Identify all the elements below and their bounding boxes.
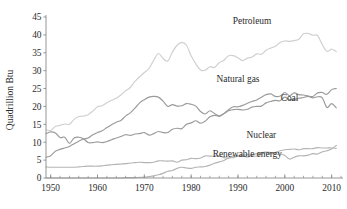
series-layer: [46, 33, 336, 178]
x-tick-label: 1950: [41, 183, 60, 193]
series-labels-layer: PetroleumNatural gasCoalNuclearRenewable…: [213, 16, 299, 158]
series-label-natural-gas: Natural gas: [217, 74, 260, 84]
chart-container: 0510152025303540451950196019701980199020…: [0, 0, 347, 209]
series-line-petroleum: [46, 33, 336, 130]
y-tick-label: 30: [32, 66, 42, 76]
series-label-coal: Coal: [281, 93, 299, 103]
series-label-nuclear: Nuclear: [247, 130, 278, 140]
series-line-coal: [46, 96, 336, 143]
x-tick-label: 2000: [275, 183, 294, 193]
series-line-nuclear: [46, 148, 336, 178]
y-tick-label: 20: [32, 102, 42, 112]
y-tick-label: 40: [32, 30, 42, 40]
y-axis-title: Quadrillion Btu: [4, 70, 15, 131]
y-tick-label: 10: [32, 138, 42, 148]
series-label-petroleum: Petroleum: [233, 16, 272, 26]
y-tick-label: 25: [32, 84, 42, 94]
x-tick-label: 1970: [135, 183, 154, 193]
energy-consumption-line-chart: 0510152025303540451950196019701980199020…: [0, 0, 347, 209]
y-tick-label: 35: [32, 48, 42, 58]
series-label-renewable-energy: Renewable energy: [213, 149, 283, 159]
x-tick-label: 1960: [88, 183, 107, 193]
y-tick-label: 45: [32, 12, 42, 22]
y-tick-label: 5: [37, 155, 42, 165]
x-tick-label: 1980: [182, 183, 201, 193]
y-tick-label: 15: [32, 120, 42, 130]
x-tick-label: 1990: [229, 183, 248, 193]
x-tick-label: 2010: [322, 183, 341, 193]
